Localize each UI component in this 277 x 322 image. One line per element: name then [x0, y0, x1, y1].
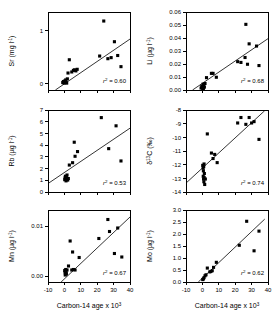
data-point: [203, 82, 206, 85]
data-point: [212, 266, 215, 269]
y-tick-label: 6: [40, 119, 44, 125]
data-point: [253, 120, 256, 123]
data-point: [65, 268, 68, 271]
data-point: [257, 64, 260, 67]
data-point: [65, 82, 68, 85]
y-tick-label: -11: [173, 148, 182, 154]
y-axis-title: Li (µg l-1): [146, 37, 155, 65]
data-point: [97, 237, 100, 240]
data-point: [246, 63, 249, 66]
data-point: [202, 162, 205, 165]
data-point: [116, 54, 119, 57]
data-point: [204, 177, 207, 180]
data-point: [204, 273, 207, 276]
y-tick-label: 1.5: [173, 243, 182, 249]
data-point: [65, 173, 68, 176]
y-tick-label: 4: [40, 142, 44, 148]
data-point: [215, 76, 218, 79]
panel-rb: 01234567r2 = 0.53Rb (µg l-1): [0, 104, 139, 204]
data-point: [116, 226, 119, 229]
x-tick-label: 20: [232, 287, 239, 293]
data-point: [107, 147, 110, 150]
y-axis: -8-9-10-11-12-13-14: [172, 107, 186, 195]
data-point: [253, 249, 256, 252]
y-axis-title: Mo (µg l-1): [146, 230, 155, 262]
y-tick-label: 0.03: [169, 48, 181, 54]
y-tick-label: -9: [176, 121, 182, 127]
data-point: [257, 138, 260, 141]
data-point: [119, 159, 122, 162]
x-axis-title: Carbon-14 age x 103: [57, 302, 122, 311]
y-tick-label: 5: [40, 131, 44, 137]
data-point: [202, 180, 205, 183]
x-axis: -10010203040: [44, 282, 134, 293]
data-point: [66, 77, 69, 80]
y-tick-label: -13: [172, 176, 181, 182]
data-point: [205, 76, 208, 79]
data-point: [67, 177, 70, 180]
y-tick-label: 0.04: [169, 35, 181, 41]
data-point: [210, 152, 213, 155]
data-point: [119, 65, 122, 68]
data-point: [100, 116, 103, 119]
y-tick-label: 7: [40, 107, 44, 113]
x-tick-label: 40: [265, 287, 272, 293]
r-squared-annotation: r2 = 0.74: [241, 179, 265, 187]
y-axis: 0.000.010.020.030.040.050.06: [169, 9, 186, 93]
data-point: [239, 61, 242, 64]
data-point: [102, 19, 105, 22]
figure-scatter-grid: 01r2 = 0.60Sr (mg l-1)0.000.010.020.030.…: [0, 0, 277, 322]
data-points: [61, 19, 122, 84]
data-point: [239, 116, 242, 119]
data-point: [66, 71, 69, 74]
data-point: [238, 244, 241, 247]
data-point: [110, 56, 113, 59]
panel-sr: 01r2 = 0.60Sr (mg l-1): [0, 2, 139, 104]
r-squared-annotation: r2 = 0.62: [241, 269, 265, 277]
y-tick-label: 1: [40, 177, 44, 183]
x-tick-label: 30: [110, 287, 117, 293]
y-axis-title: Sr (mg l-1): [8, 36, 17, 67]
data-point: [68, 58, 71, 61]
y-tick-label: 2.0: [173, 231, 182, 237]
y-tick-label: 0.01: [31, 223, 43, 229]
y-tick-label: 2: [40, 166, 44, 172]
data-point: [74, 268, 77, 271]
data-point: [245, 220, 248, 223]
y-axis-title: Rb (µg l-1): [8, 135, 17, 166]
x-tick-label: 20: [94, 287, 101, 293]
x-tick-label: 0: [63, 287, 67, 293]
data-point: [71, 161, 74, 164]
x-tick-label: 10: [215, 287, 222, 293]
y-tick-label: -8: [176, 107, 182, 113]
r-squared-annotation: r2 = 0.68: [241, 77, 265, 85]
x-tick-label: -10: [182, 287, 191, 293]
data-point: [76, 68, 79, 71]
data-point: [255, 45, 258, 48]
data-point: [236, 121, 239, 124]
panel-d13c: -8-9-10-11-12-13-14r2 = 0.74δ13C (‰): [138, 104, 277, 204]
y-tick-label: 3: [40, 154, 44, 160]
data-point: [215, 261, 218, 264]
x-axis: -10010203040: [182, 282, 272, 293]
data-point: [68, 164, 71, 167]
r-squared-annotation: r2 = 0.67: [103, 269, 127, 277]
y-tick-label: 1: [40, 28, 44, 34]
data-point: [203, 172, 206, 175]
regression-line: [48, 128, 130, 183]
data-point: [203, 183, 206, 186]
y-axis: 01234567: [40, 107, 48, 195]
data-point: [202, 87, 205, 90]
data-point: [67, 264, 70, 267]
data-point: [106, 218, 109, 221]
data-point: [243, 56, 246, 59]
x-tick-label: 10: [77, 287, 84, 293]
data-point: [202, 165, 205, 168]
data-point: [216, 161, 219, 164]
data-point: [113, 252, 116, 255]
data-points: [201, 116, 260, 186]
y-tick-label: 0.00: [169, 87, 181, 93]
data-point: [78, 256, 81, 259]
y-tick-label: 0.02: [169, 61, 181, 67]
data-point: [69, 239, 72, 242]
